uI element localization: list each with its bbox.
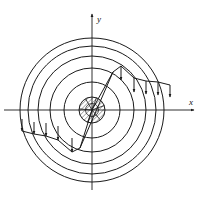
- phase-portrait-svg: x y: [0, 0, 206, 199]
- x-axis-label: x: [188, 97, 193, 107]
- y-axis-label: y: [96, 14, 101, 24]
- figure-container: x y: [0, 0, 206, 199]
